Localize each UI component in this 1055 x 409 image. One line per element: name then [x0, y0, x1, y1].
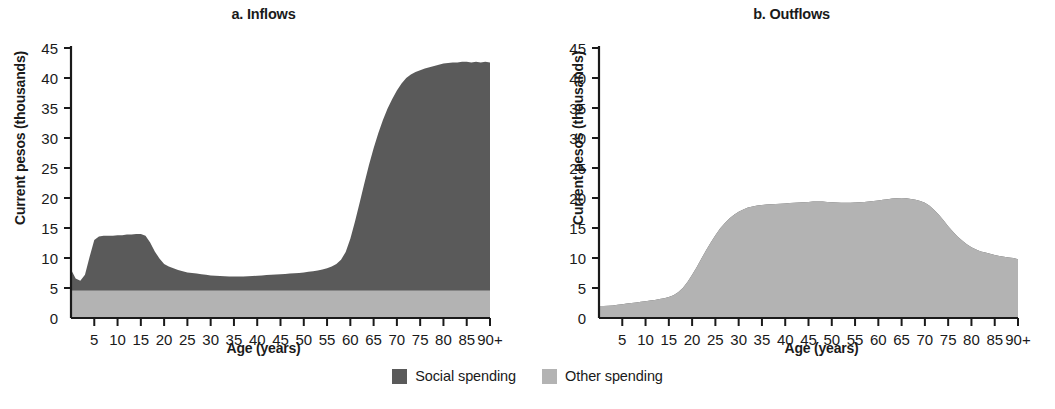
chart-svg-inflows: 0510152025303540455101520253035404550556… [0, 0, 527, 345]
chart-panel-outflows: b. Outflows Current pesos (thousands) 05… [528, 0, 1055, 370]
svg-text:45: 45 [569, 40, 586, 57]
svg-text:30: 30 [41, 130, 58, 147]
x-axis-title-inflows: Age (years) [0, 340, 527, 356]
chart-panel-inflows: a. Inflows Current pesos (thousands) 051… [0, 0, 527, 370]
legend-label-other-spending: Other spending [565, 368, 663, 384]
svg-text:10: 10 [41, 250, 58, 267]
legend-swatch-other-spending [542, 369, 557, 384]
svg-text:35: 35 [569, 100, 586, 117]
chart-legend: Social spending Other spending [0, 368, 1055, 384]
svg-text:10: 10 [569, 250, 586, 267]
svg-text:20: 20 [41, 190, 58, 207]
legend-item-social-spending: Social spending [392, 368, 516, 384]
svg-text:45: 45 [41, 40, 58, 57]
svg-text:35: 35 [41, 100, 58, 117]
svg-text:5: 5 [578, 280, 586, 297]
plot-area-inflows: Current pesos (thousands) 05101520253035… [0, 0, 527, 370]
x-axis-title-outflows: Age (years) [558, 340, 1055, 356]
svg-text:40: 40 [41, 70, 58, 87]
chart-svg-outflows: 0510152025303540455101520253035404550556… [528, 0, 1055, 345]
legend-swatch-social-spending [392, 369, 407, 384]
svg-text:5: 5 [50, 280, 58, 297]
svg-text:0: 0 [50, 310, 58, 327]
figure-container: a. Inflows Current pesos (thousands) 051… [0, 0, 1055, 409]
svg-text:15: 15 [569, 220, 586, 237]
svg-text:30: 30 [569, 130, 586, 147]
svg-text:40: 40 [569, 70, 586, 87]
svg-text:20: 20 [569, 190, 586, 207]
svg-text:0: 0 [578, 310, 586, 327]
legend-label-social-spending: Social spending [415, 368, 516, 384]
svg-text:25: 25 [569, 160, 586, 177]
legend-item-other-spending: Other spending [542, 368, 663, 384]
svg-text:15: 15 [41, 220, 58, 237]
svg-text:25: 25 [41, 160, 58, 177]
plot-area-outflows: Current pesos (thousands) 05101520253035… [528, 0, 1055, 370]
